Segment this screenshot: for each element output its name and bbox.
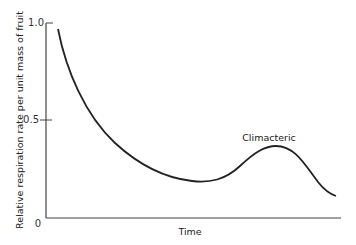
climacteric-annotation: Climacteric <box>242 132 296 143</box>
y-axis-label: Relative respiration rate per unit mass … <box>14 11 25 229</box>
y-tick-label-mid: 0.5 <box>23 114 39 125</box>
chart: 1.0 0.5 0 Relative respiration rate per … <box>0 0 356 245</box>
respiration-curve <box>58 29 336 196</box>
y-tick-label-zero: 0 <box>35 218 41 229</box>
x-axis-label: Time <box>177 226 201 237</box>
y-tick-label-top: 1.0 <box>28 17 44 28</box>
